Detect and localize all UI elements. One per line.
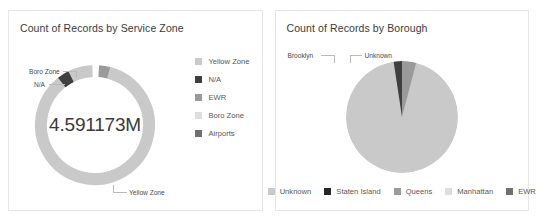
donut-slice-yellow-zone[interactable]: [30, 60, 161, 191]
legend-swatch-icon: [394, 188, 401, 195]
callout-label-brooklyn: Brooklyn: [288, 52, 314, 59]
legend-item-ewr[interactable]: EWR: [195, 93, 249, 102]
callout-label-na: N/A: [34, 81, 45, 88]
legend-item-yellow-zone[interactable]: Yellow Zone: [195, 57, 249, 66]
callout-leader-yellow-zone: [113, 192, 127, 193]
service-zone-legend: Yellow Zone N/A EWR Boro Zone Airports: [195, 57, 249, 138]
legend-item-unknown[interactable]: Unknown: [268, 187, 312, 196]
legend-swatch-icon: [506, 188, 513, 195]
service-zone-donut-chart[interactable]: 4.591173M: [29, 59, 161, 191]
dashboard: Count of Records by Service Zone 4.59117…: [0, 0, 537, 221]
legend-label: Queens: [406, 187, 433, 196]
legend-label: Boro Zone: [208, 111, 243, 120]
callout-leader-na: [49, 84, 65, 85]
donut-slice-na[interactable]: [29, 59, 161, 191]
legend-swatch-icon: [324, 188, 331, 195]
legend-swatch-icon: [195, 94, 202, 101]
callout-leader-unknown-stem: [350, 55, 351, 63]
pie-svg: [346, 61, 458, 173]
legend-label: N/A: [208, 75, 221, 84]
callout-label-yellow-zone: Yellow Zone: [129, 189, 165, 196]
legend-label: Staten Island: [336, 187, 380, 196]
legend-item-queens[interactable]: Queens: [394, 187, 433, 196]
legend-swatch-icon: [195, 112, 202, 119]
legend-swatch-icon: [195, 130, 202, 137]
callout-leader-boro-zone-stem: [76, 71, 77, 78]
legend-label: Airports: [208, 129, 234, 138]
borough-panel: Count of Records by Borough Brooklyn Unk…: [275, 10, 530, 211]
legend-item-na[interactable]: N/A: [195, 75, 249, 84]
legend-item-manhattan[interactable]: Manhattan: [445, 187, 493, 196]
callout-label-boro-zone: Boro Zone: [29, 68, 60, 75]
legend-label: Unknown: [280, 187, 312, 196]
legend-swatch-icon: [195, 58, 202, 65]
legend-label: Manhattan: [457, 187, 493, 196]
service-zone-title: Count of Records by Service Zone: [20, 22, 184, 34]
legend-item-boro-zone[interactable]: Boro Zone: [195, 111, 249, 120]
legend-swatch-icon: [268, 188, 275, 195]
legend-label: Yellow Zone: [208, 57, 249, 66]
callout-leader-brooklyn-stem: [334, 55, 335, 63]
legend-item-airports[interactable]: Airports: [195, 129, 249, 138]
borough-title: Count of Records by Borough: [287, 22, 428, 34]
callout-leader-unknown: [350, 55, 362, 56]
legend-item-staten-island[interactable]: Staten Island: [324, 187, 380, 196]
callout-leader-yellow-zone-stem: [113, 185, 114, 193]
callout-leader-brooklyn: [321, 55, 335, 56]
callout-leader-boro-zone: [63, 71, 77, 72]
legend-label: EWR: [518, 187, 536, 196]
legend-item-ewr[interactable]: EWR: [506, 187, 536, 196]
service-zone-panel: Count of Records by Service Zone 4.59117…: [8, 10, 263, 211]
borough-legend: Unknown Staten Island Queens Manhattan E…: [276, 187, 529, 196]
legend-swatch-icon: [195, 76, 202, 83]
borough-pie-chart[interactable]: [346, 61, 458, 173]
callout-label-unknown: Unknown: [365, 52, 393, 59]
legend-swatch-icon: [445, 188, 452, 195]
legend-label: EWR: [208, 93, 226, 102]
donut-svg: [29, 59, 161, 191]
